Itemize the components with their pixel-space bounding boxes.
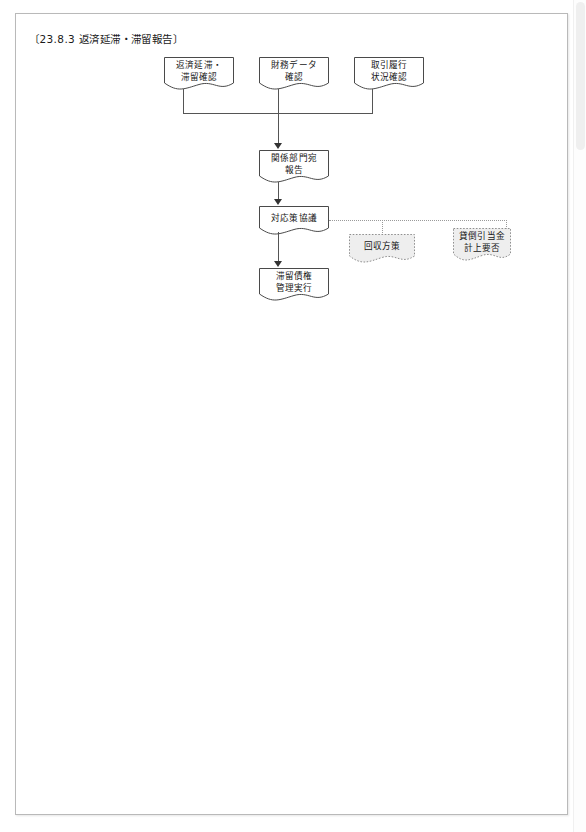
flow-node-label: 関係部門宛 報告 bbox=[259, 150, 329, 184]
arrow-to-discussion bbox=[274, 199, 282, 205]
flow-node-transaction-performance-check[interactable]: 取引履行 状況確認 bbox=[354, 57, 424, 91]
document-viewport: 〔23.8.3 返済延滞・滞留報告〕 返済延滞・ 滞留確認 財務データ 確認 bbox=[0, 0, 586, 832]
page-sheet: 〔23.8.3 返済延滞・滞留報告〕 返済延滞・ 滞留確認 財務データ 確認 bbox=[15, 13, 568, 815]
connector-report-to-discussion bbox=[278, 182, 279, 199]
flow-node-repayment-delay-check[interactable]: 返済延滞・ 滞留確認 bbox=[164, 57, 234, 91]
vertical-scrollbar-track[interactable] bbox=[573, 0, 586, 832]
connector-node2-down bbox=[278, 89, 279, 113]
vertical-scrollbar-thumb[interactable] bbox=[576, 2, 585, 150]
arrow-to-management bbox=[274, 261, 282, 267]
flow-node-delinquent-claim-management[interactable]: 滞留債権 管理実行 bbox=[259, 268, 329, 302]
flow-node-report-to-departments[interactable]: 関係部門宛 報告 bbox=[259, 150, 329, 184]
flow-node-label: 返済延滞・ 滞留確認 bbox=[164, 57, 234, 91]
flow-node-label: 滞留債権 管理実行 bbox=[259, 268, 329, 302]
flow-node-countermeasure-discussion[interactable]: 対応策協議 bbox=[259, 206, 329, 236]
arrow-to-report bbox=[274, 143, 282, 149]
dotted-connector-to-recovery bbox=[382, 220, 383, 235]
connector-discussion-to-management bbox=[278, 232, 279, 261]
flowchart-canvas: 返済延滞・ 滞留確認 財務データ 確認 取引履行 状況確認 bbox=[16, 14, 569, 816]
flow-node-recovery-measures[interactable]: 回収方策 bbox=[349, 234, 415, 264]
flow-node-label: 回収方策 bbox=[349, 234, 415, 264]
flow-node-label: 取引履行 状況確認 bbox=[354, 57, 424, 91]
connector-node1-down bbox=[183, 89, 184, 113]
flow-node-label: 財務データ 確認 bbox=[259, 57, 329, 91]
flow-node-bad-debt-allowance[interactable]: 貸倒引当金 計上要否 bbox=[453, 228, 511, 262]
connector-bus-to-report bbox=[278, 113, 279, 143]
connector-node3-down bbox=[372, 89, 373, 113]
dotted-connector-main bbox=[329, 220, 507, 221]
flow-node-label: 貸倒引当金 計上要否 bbox=[453, 228, 511, 262]
flow-node-label: 対応策協議 bbox=[259, 206, 329, 236]
flow-node-financial-data-check[interactable]: 財務データ 確認 bbox=[259, 57, 329, 91]
